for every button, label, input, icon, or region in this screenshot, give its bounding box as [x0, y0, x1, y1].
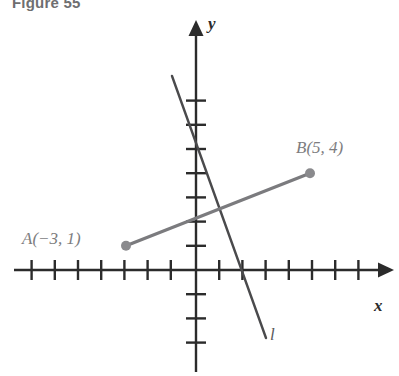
y-axis-label: y — [208, 14, 216, 34]
point-A-marker — [121, 241, 131, 251]
x-axis — [14, 260, 394, 280]
x-axis-label: x — [374, 296, 383, 316]
point-B-marker — [305, 168, 315, 178]
y-axis — [186, 20, 206, 372]
y-axis-arrowhead-icon — [189, 20, 204, 36]
line-l-label: l — [270, 325, 275, 345]
point-B-label: B(5, 4) — [296, 138, 343, 158]
point-A-label: A(−3, 1) — [22, 229, 81, 249]
figure-container: Figure 55 — [0, 0, 399, 376]
coordinate-plane-graph — [0, 0, 399, 376]
line-l — [172, 76, 266, 338]
x-axis-arrowhead-icon — [378, 263, 394, 278]
segment-AB — [126, 173, 310, 246]
